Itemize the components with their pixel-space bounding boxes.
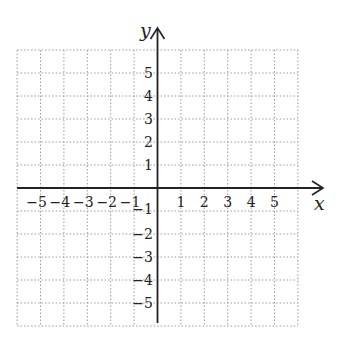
y-tick-label: −2 (132, 226, 153, 242)
x-tick-label: 1 (176, 194, 185, 210)
x-tick-label: 4 (247, 194, 256, 210)
y-tick-label: −5 (132, 295, 153, 311)
x-tick-label: −2 (96, 194, 117, 210)
y-tick-label: 1 (144, 157, 153, 173)
coordinate-plane: −5−4−3−2−112345−5−4−3−2−112345 x y (0, 0, 347, 337)
x-tick-label: −3 (73, 194, 94, 210)
y-axis-label: y (139, 19, 151, 41)
y-tick-label: 4 (144, 88, 153, 104)
y-tick-label: −1 (132, 201, 153, 217)
y-tick-label: 3 (144, 111, 153, 127)
y-tick-label: 5 (144, 65, 153, 81)
axes (17, 28, 323, 323)
x-tick-label: 3 (223, 194, 232, 210)
y-tick-label: 2 (144, 134, 153, 150)
x-tick-label: 5 (270, 194, 279, 210)
x-axis-label: x (314, 192, 325, 214)
y-tick-label: −4 (132, 272, 153, 288)
y-tick-label: −3 (132, 249, 153, 265)
x-tick-label: 2 (200, 194, 209, 210)
x-tick-label: −4 (50, 194, 71, 210)
x-tick-label: −5 (26, 194, 47, 210)
